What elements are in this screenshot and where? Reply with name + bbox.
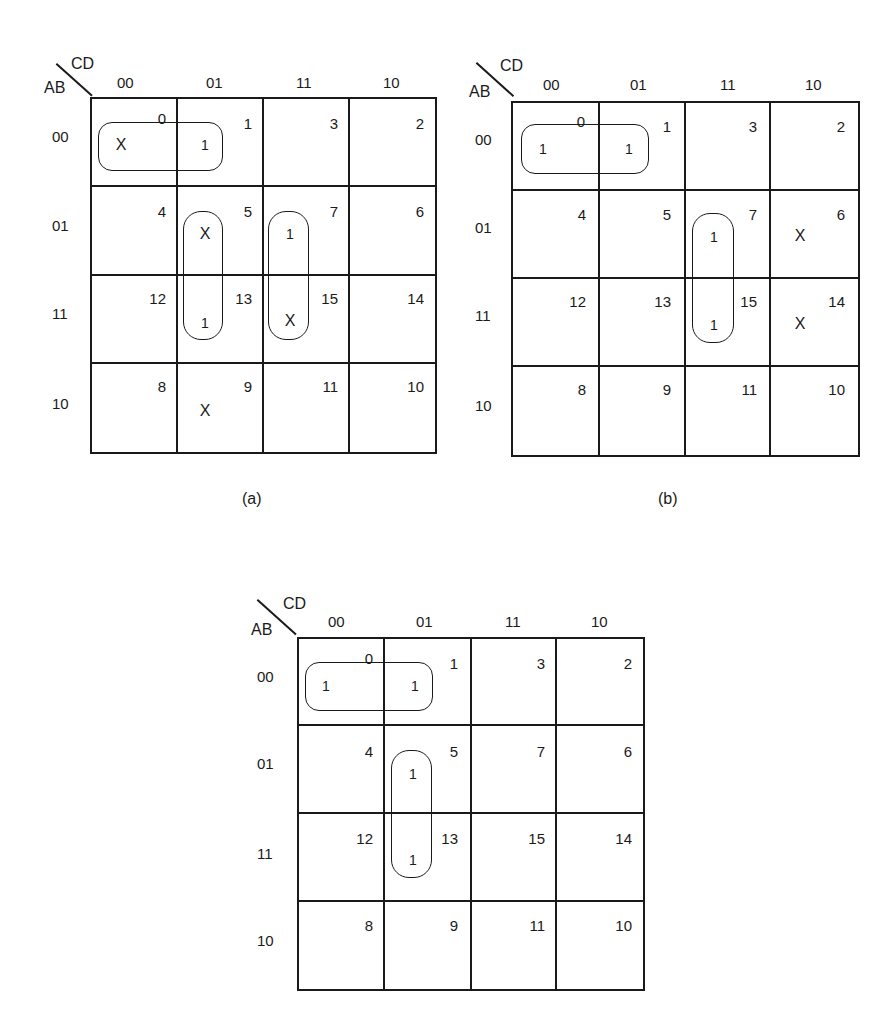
minterm-5: 5 <box>428 743 458 760</box>
loop-m7-m15 <box>692 213 734 343</box>
row-var-label: AB <box>251 621 272 639</box>
col-var-label: CD <box>71 55 94 73</box>
row-label-01: 01 <box>52 217 69 234</box>
col-label-11: 11 <box>296 74 312 91</box>
loop-m7-m15 <box>268 211 309 340</box>
col-label-01: 01 <box>630 76 647 93</box>
minterm-9: 9 <box>222 378 252 395</box>
col-label-01: 01 <box>416 613 433 630</box>
minterm-8: 8 <box>556 381 586 398</box>
minterm-11: 11 <box>727 381 757 398</box>
row-label-11: 11 <box>257 845 273 862</box>
minterm-11: 11 <box>308 378 338 395</box>
minterm-15: 15 <box>308 290 338 307</box>
minterm-10: 10 <box>815 381 845 398</box>
minterm-10: 10 <box>394 378 424 395</box>
loop-m5-m13 <box>183 211 223 340</box>
row-label-10: 10 <box>475 397 492 414</box>
minterm-15: 15 <box>515 830 545 847</box>
row-var-label: AB <box>469 83 490 101</box>
minterm-1: 1 <box>428 655 458 672</box>
col-label-00: 00 <box>328 613 345 630</box>
row-label-10: 10 <box>257 932 274 949</box>
minterm-7: 7 <box>308 203 338 220</box>
minterm-6: 6 <box>815 206 845 223</box>
minterm-4: 4 <box>556 206 586 223</box>
minterm-1: 1 <box>222 115 252 132</box>
col-label-10: 10 <box>805 76 822 93</box>
minterm-9: 9 <box>641 381 671 398</box>
minterm-5: 5 <box>222 203 252 220</box>
minterm-3: 3 <box>308 115 338 132</box>
col-label-10: 10 <box>591 613 608 630</box>
minterm-12: 12 <box>556 293 586 310</box>
minterm-9: 9 <box>428 917 458 934</box>
col-label-11: 11 <box>720 76 736 93</box>
row-var-label: AB <box>44 79 65 97</box>
cell-value-m6: X <box>790 227 810 245</box>
minterm-13: 13 <box>641 293 671 310</box>
col-label-00: 00 <box>117 74 134 91</box>
loop-m5-m13 <box>391 750 432 878</box>
minterm-2: 2 <box>394 115 424 132</box>
row-label-00: 00 <box>257 668 274 685</box>
col-label-01: 01 <box>206 74 223 91</box>
cell-value-m14: X <box>790 315 810 333</box>
minterm-14: 14 <box>394 290 424 307</box>
row-label-00: 00 <box>475 131 492 148</box>
row-label-00: 00 <box>52 128 69 145</box>
minterm-14: 14 <box>602 830 632 847</box>
minterm-14: 14 <box>815 293 845 310</box>
minterm-8: 8 <box>136 378 166 395</box>
minterm-7: 7 <box>515 743 545 760</box>
loop-m0-m1 <box>305 662 433 711</box>
minterm-4: 4 <box>343 743 373 760</box>
row-label-11: 11 <box>475 307 491 324</box>
minterm-13: 13 <box>428 830 458 847</box>
caption-a: (a) <box>242 490 262 508</box>
col-label-00: 00 <box>543 76 560 93</box>
minterm-2: 2 <box>815 118 845 135</box>
cell-value-m9: X <box>195 402 215 420</box>
col-label-10: 10 <box>383 74 400 91</box>
caption-b: (b) <box>658 490 678 508</box>
minterm-12: 12 <box>343 830 373 847</box>
minterm-6: 6 <box>394 203 424 220</box>
col-var-label: CD <box>500 57 523 75</box>
minterm-2: 2 <box>602 655 632 672</box>
minterm-4: 4 <box>136 203 166 220</box>
row-label-01: 01 <box>257 755 274 772</box>
row-label-01: 01 <box>475 219 492 236</box>
minterm-6: 6 <box>602 743 632 760</box>
row-label-11: 11 <box>52 305 68 322</box>
minterm-11: 11 <box>515 917 545 934</box>
col-var-label: CD <box>283 595 306 613</box>
row-label-10: 10 <box>52 395 69 412</box>
minterm-13: 13 <box>222 290 252 307</box>
minterm-8: 8 <box>343 917 373 934</box>
minterm-3: 3 <box>727 118 757 135</box>
col-label-11: 11 <box>505 613 521 630</box>
minterm-12: 12 <box>136 290 166 307</box>
minterm-10: 10 <box>602 917 632 934</box>
minterm-5: 5 <box>641 206 671 223</box>
loop-m0-m1 <box>521 124 649 174</box>
loop-m0-m1 <box>98 122 223 171</box>
minterm-3: 3 <box>515 655 545 672</box>
minterm-7: 7 <box>727 206 757 223</box>
